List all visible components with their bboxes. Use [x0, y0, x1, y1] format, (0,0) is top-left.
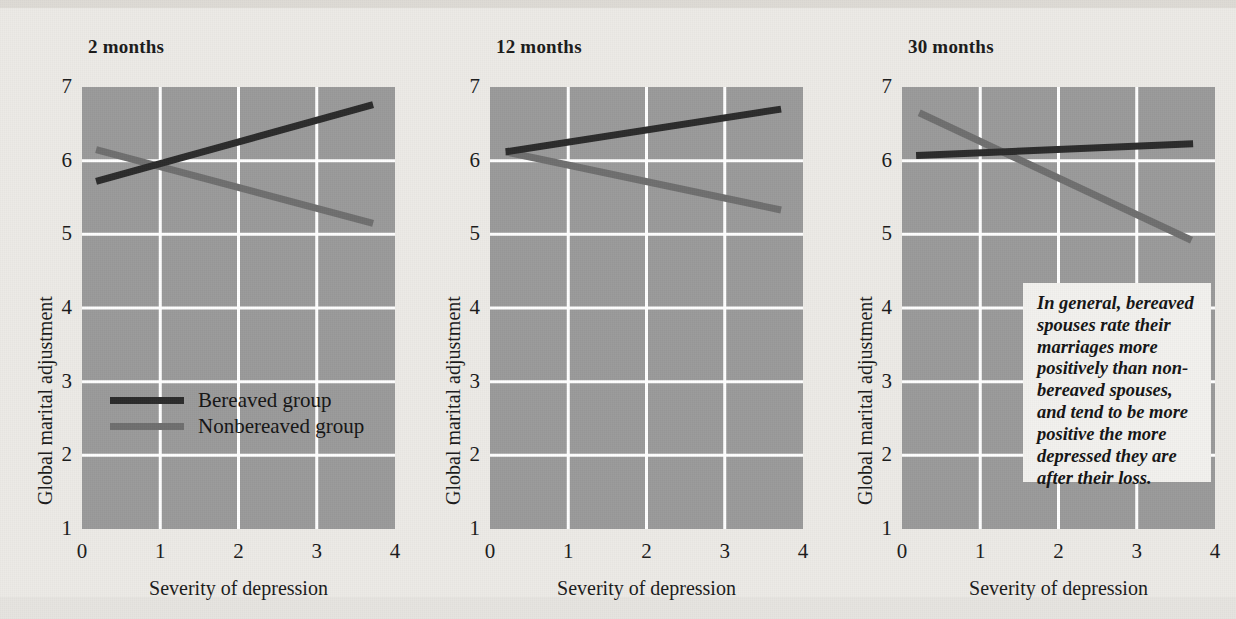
legend-label: Bereaved group — [198, 388, 332, 413]
legend-swatch-icon — [110, 423, 184, 430]
x-tick-label: 0 — [69, 541, 95, 562]
panel-title-1: 2 months — [88, 36, 164, 58]
x-tick-label: 4 — [790, 541, 816, 562]
plot-svg-1 — [82, 87, 395, 529]
plot-area-2 — [490, 87, 803, 529]
series-line-bereaved-group — [506, 109, 781, 152]
y-axis-title-2: Global marital adjustment — [442, 296, 465, 505]
x-tick-label: 4 — [382, 541, 408, 562]
x-tick-label: 1 — [147, 541, 173, 562]
y-tick-label: 5 — [454, 223, 480, 244]
x-tick-label: 1 — [967, 541, 993, 562]
legend: Bereaved groupNonbereaved group — [110, 387, 364, 439]
y-tick-label: 7 — [454, 76, 480, 97]
y-tick-label: 7 — [866, 76, 892, 97]
y-axis-title-1: Global marital adjustment — [34, 296, 57, 505]
plot-area-1 — [82, 87, 395, 529]
y-tick-label: 6 — [454, 150, 480, 171]
y-tick-label: 6 — [46, 150, 72, 171]
x-tick-label: 3 — [712, 541, 738, 562]
series-line-bereaved-group — [916, 144, 1193, 156]
x-tick-label: 4 — [1202, 541, 1228, 562]
x-tick-label: 3 — [1124, 541, 1150, 562]
x-axis-title-2: Severity of depression — [490, 577, 803, 600]
y-tick-label: 1 — [46, 518, 72, 539]
figure-root: 2 months123456701234Severity of depressi… — [0, 0, 1236, 619]
page-edge-bottom — [0, 597, 1236, 619]
legend-item-2: Nonbereaved group — [110, 413, 364, 439]
panel-title-2: 12 months — [496, 36, 582, 58]
series-line-nonbereaved-group — [919, 113, 1191, 240]
x-tick-label: 2 — [226, 541, 252, 562]
x-tick-label: 1 — [555, 541, 581, 562]
y-tick-label: 6 — [866, 150, 892, 171]
legend-item-1: Bereaved group — [110, 387, 364, 413]
y-tick-label: 1 — [866, 518, 892, 539]
x-axis-title-3: Severity of depression — [902, 577, 1215, 600]
callout-text: In general, bereaved spouses rate their … — [1037, 293, 1194, 488]
y-tick-label: 5 — [866, 223, 892, 244]
y-axis-title-3: Global marital adjustment — [854, 296, 877, 505]
x-axis-title-1: Severity of depression — [82, 577, 395, 600]
plot-svg-2 — [490, 87, 803, 529]
y-tick-label: 5 — [46, 223, 72, 244]
callout-annotation: In general, bereaved spouses rate their … — [1023, 283, 1211, 482]
x-tick-label: 3 — [304, 541, 330, 562]
page-edge-top — [0, 0, 1236, 8]
legend-label: Nonbereaved group — [198, 414, 364, 439]
y-tick-label: 7 — [46, 76, 72, 97]
y-tick-label: 1 — [454, 518, 480, 539]
series-line-bereaved-group — [96, 105, 373, 182]
x-tick-label: 2 — [1046, 541, 1072, 562]
x-tick-label: 2 — [634, 541, 660, 562]
legend-swatch-icon — [110, 397, 184, 404]
x-tick-label: 0 — [889, 541, 915, 562]
x-tick-label: 0 — [477, 541, 503, 562]
panel-title-3: 30 months — [908, 36, 994, 58]
